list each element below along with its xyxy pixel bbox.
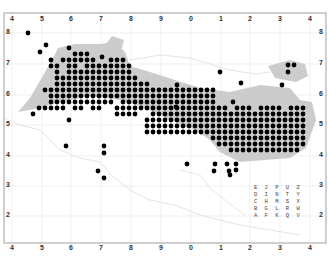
occurrence-dot (235, 148, 240, 153)
occurrence-dot (235, 106, 240, 111)
x-axis-label: 2 (248, 244, 252, 251)
occurrence-dot (229, 148, 234, 153)
occurrence-dot (151, 130, 156, 135)
occurrence-dot (181, 112, 186, 117)
occurrence-dot (73, 106, 78, 111)
occurrence-dot (277, 118, 282, 123)
occurrence-dot (277, 112, 282, 117)
occurrence-dot (217, 118, 222, 123)
occurrence-dot (217, 106, 222, 111)
occurrence-dot (187, 100, 192, 105)
occurrence-dot (229, 124, 234, 129)
x-axis-label: 7 (99, 244, 103, 251)
x-axis-label: 4 (308, 244, 312, 251)
occurrence-dot (73, 64, 78, 69)
occurrence-dot (283, 118, 288, 123)
key-row: D I N T Y (254, 191, 302, 198)
y-axis-label: 5 (6, 120, 10, 127)
x-axis-label: 7 (99, 15, 103, 22)
occurrence-dot (133, 100, 138, 105)
occurrence-dot (193, 130, 198, 135)
occurrence-dot (115, 64, 120, 69)
x-axis-label: 0 (189, 15, 193, 22)
occurrence-dot (109, 94, 114, 99)
occurrence-dot (91, 106, 96, 111)
occurrence-dot (295, 142, 300, 147)
occurrence-dot (133, 106, 138, 111)
occurrence-dot (151, 124, 156, 129)
occurrence-dot (235, 118, 240, 123)
occurrence-dot (79, 70, 84, 75)
occurrence-dot (102, 176, 107, 181)
occurrence-dot (91, 58, 96, 63)
occurrence-dot (205, 88, 210, 93)
occurrence-dot (73, 58, 78, 63)
occurrence-dot (223, 142, 228, 147)
occurrence-dot (205, 112, 210, 117)
occurrence-dot (157, 118, 162, 123)
occurrence-dot (43, 88, 48, 93)
occurrence-dot (271, 148, 276, 153)
occurrence-dot (157, 100, 162, 105)
occurrence-dot (127, 70, 132, 75)
occurrence-dot (61, 100, 66, 105)
occurrence-dot (265, 142, 270, 147)
occurrence-dot (121, 100, 126, 105)
occurrence-dot (169, 112, 174, 117)
occurrence-dot (259, 106, 264, 111)
occurrence-dot (265, 148, 270, 153)
occurrence-dot (211, 130, 216, 135)
occurrence-dot (169, 100, 174, 105)
occurrence-dot (199, 94, 204, 99)
occurrence-dot (217, 130, 222, 135)
occurrence-dot (139, 106, 144, 111)
occurrence-dot (205, 124, 210, 129)
occurrence-dot (97, 64, 102, 69)
occurrence-dot (127, 94, 132, 99)
occurrence-dot (199, 118, 204, 123)
occurrence-dot (115, 112, 120, 117)
occurrence-dot (103, 94, 108, 99)
occurrence-dot (239, 81, 244, 86)
occurrence-dot (283, 136, 288, 141)
occurrence-dot (115, 76, 120, 81)
x-axis-label: 4 (10, 244, 14, 251)
occurrence-dot (205, 100, 210, 105)
occurrence-dot (247, 112, 252, 117)
occurrence-dot (127, 88, 132, 93)
occurrence-dot (169, 106, 174, 111)
key-row: E J P U Z (254, 184, 302, 191)
occurrence-dot (301, 124, 306, 129)
occurrence-dot (235, 130, 240, 135)
occurrence-dot (169, 118, 174, 123)
occurrence-dot (199, 130, 204, 135)
occurrence-dot (79, 106, 84, 111)
occurrence-dot (145, 118, 150, 123)
occurrence-dot (181, 94, 186, 99)
occurrence-dot (253, 136, 258, 141)
occurrence-dot (67, 82, 72, 87)
occurrence-dot (79, 52, 84, 57)
occurrence-dot (181, 106, 186, 111)
occurrence-dot (283, 112, 288, 117)
occurrence-dot (265, 118, 270, 123)
occurrence-dot (91, 88, 96, 93)
occurrence-dot (115, 70, 120, 75)
x-axis-label: 8 (129, 244, 133, 251)
occurrence-dot (231, 100, 236, 105)
x-axis-label: 2 (248, 15, 252, 22)
key-row: C H M S X (254, 198, 302, 205)
occurrence-dot (175, 100, 180, 105)
occurrence-dot (193, 106, 198, 111)
x-axis-label: 8 (129, 15, 133, 22)
occurrence-dot (227, 169, 232, 174)
occurrence-dot (286, 63, 291, 68)
x-axis-label: 4 (10, 15, 14, 22)
occurrence-dot (295, 136, 300, 141)
occurrence-dot (235, 136, 240, 141)
occurrence-dot (289, 124, 294, 129)
occurrence-dot (271, 142, 276, 147)
occurrence-dot (280, 83, 285, 88)
occurrence-dot (241, 148, 246, 153)
occurrence-dot (265, 130, 270, 135)
